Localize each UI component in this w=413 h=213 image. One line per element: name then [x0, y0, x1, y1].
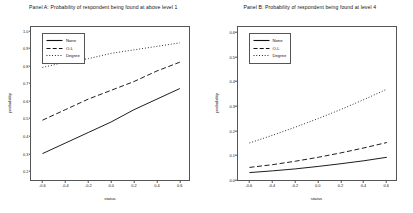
panel-a-y-axis-label: probability — [7, 93, 12, 113]
legend-entry-ol: O-L — [46, 45, 80, 53]
series-line-o-l — [42, 62, 179, 120]
x-tick-label: -0.2 — [85, 183, 92, 188]
x-tick-label: -0.4 — [268, 183, 275, 188]
x-tick-label: 0.2 — [131, 183, 136, 188]
legend-key-dotted-icon — [253, 52, 270, 59]
x-tick-label: 0.4 — [154, 183, 159, 188]
x-tick-label: 0.6 — [177, 183, 182, 188]
x-tick-mark — [42, 180, 43, 183]
panel-b: Panel B: Probability of respondent being… — [207, 0, 413, 213]
x-tick-label: -0.6 — [246, 183, 253, 188]
panel-a-title: Panel A: Probability of respondent being… — [0, 4, 207, 10]
x-tick-label: 0.0 — [315, 183, 320, 188]
y-tick-mark — [235, 155, 238, 156]
y-tick-mark — [29, 171, 32, 172]
x-tick-label: -0.2 — [291, 183, 298, 188]
x-tick-mark — [134, 180, 135, 183]
panel-a: Panel A: Probability of respondent being… — [0, 0, 207, 213]
y-tick-mark — [29, 48, 32, 49]
panel-b-legend: None O-L Degree — [249, 33, 292, 64]
y-tick-mark — [235, 106, 238, 107]
panel-b-y-axis-label: probability — [213, 93, 218, 113]
legend-label-degree: Degree — [66, 53, 80, 58]
x-tick-mark — [340, 180, 341, 183]
x-tick-mark — [180, 180, 181, 183]
y-tick-label: 0.2 — [23, 169, 28, 174]
x-tick-label: 0.2 — [338, 183, 343, 188]
legend-label-degree: Degree — [273, 53, 287, 58]
y-tick-label: 0.5 — [23, 116, 28, 121]
legend-label-ol: O-L — [273, 46, 280, 51]
y-tick-label: 0.6 — [230, 29, 235, 34]
y-tick-mark — [29, 83, 32, 84]
y-tick-mark — [29, 101, 32, 102]
x-tick-mark — [88, 180, 89, 183]
y-tick-label: 0.9 — [23, 46, 28, 51]
x-tick-mark — [65, 180, 66, 183]
y-tick-label: 0.5 — [230, 54, 235, 59]
legend-label-ol: O-L — [66, 46, 73, 51]
panel-b-title: Panel B: Probability of respondent being… — [207, 4, 413, 10]
y-tick-label: 0.6 — [23, 98, 28, 103]
y-tick-label: 0.4 — [230, 79, 235, 84]
legend-key-dashed-icon — [46, 45, 63, 52]
x-tick-mark — [363, 180, 364, 183]
panel-a-x-axis-label: status — [30, 196, 190, 201]
y-tick-mark — [235, 180, 238, 181]
y-tick-mark — [235, 32, 238, 33]
y-tick-mark — [235, 81, 238, 82]
x-tick-mark — [386, 180, 387, 183]
x-tick-label: -0.4 — [62, 183, 69, 188]
x-tick-label: -0.6 — [39, 183, 46, 188]
x-tick-mark — [272, 180, 273, 183]
y-tick-label: 0.0 — [230, 178, 235, 183]
figure-two-panel-probability-plots: Panel A: Probability of respondent being… — [0, 0, 413, 213]
y-tick-label: 0.1 — [230, 153, 235, 158]
y-tick-label: 0.2 — [230, 128, 235, 133]
y-tick-mark — [29, 118, 32, 119]
y-tick-label: 1.0 — [23, 28, 28, 33]
legend-entry-degree: Degree — [46, 52, 80, 60]
x-tick-mark — [249, 180, 250, 183]
x-tick-mark — [111, 180, 112, 183]
series-line-o-l — [249, 142, 386, 167]
y-tick-label: 0.8 — [23, 63, 28, 68]
y-tick-mark — [29, 65, 32, 66]
legend-label-none: None — [66, 38, 76, 43]
legend-label-none: None — [273, 38, 283, 43]
y-tick-mark — [29, 153, 32, 154]
y-tick-mark — [29, 136, 32, 137]
x-tick-mark — [294, 180, 295, 183]
legend-entry-degree: Degree — [253, 52, 287, 60]
legend-entry-none: None — [46, 37, 80, 45]
legend-key-dashed-icon — [253, 45, 270, 52]
y-tick-label: 0.7 — [23, 81, 28, 86]
x-tick-mark — [157, 180, 158, 183]
x-tick-label: 0.4 — [361, 183, 366, 188]
y-tick-mark — [235, 56, 238, 57]
panel-a-legend: None O-L Degree — [42, 33, 85, 64]
y-tick-label: 0.3 — [230, 103, 235, 108]
x-tick-label: 0.6 — [384, 183, 389, 188]
panel-b-x-axis-label: status — [237, 196, 397, 201]
legend-entry-ol: O-L — [253, 45, 287, 53]
x-tick-label: 0.0 — [108, 183, 113, 188]
y-tick-label: 0.4 — [23, 134, 28, 139]
y-tick-mark — [235, 130, 238, 131]
y-tick-label: 0.3 — [23, 151, 28, 156]
series-line-none — [249, 157, 386, 172]
legend-key-solid-icon — [46, 37, 63, 44]
series-line-none — [42, 89, 179, 154]
legend-key-dotted-icon — [46, 52, 63, 59]
x-tick-mark — [317, 180, 318, 183]
legend-key-solid-icon — [253, 37, 270, 44]
series-line-degree — [249, 89, 386, 143]
legend-entry-none: None — [253, 37, 287, 45]
y-tick-mark — [29, 30, 32, 31]
panel-a-plot-area: None O-L Degree 0.20.30.40.50.60.70.80.9… — [30, 26, 190, 181]
panel-b-plot-area: None O-L Degree 0.00.10.20.30.40.50.6-0.… — [237, 26, 397, 181]
